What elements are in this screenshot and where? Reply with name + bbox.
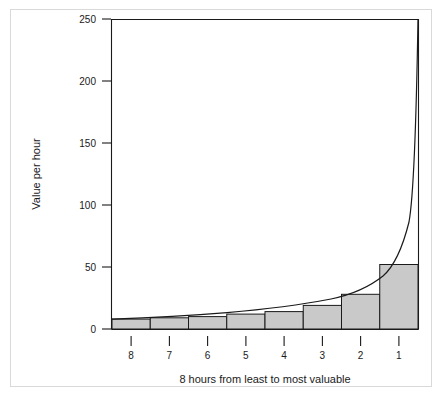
- bar-hour-5: [227, 314, 265, 329]
- x-tick-label-3: 3: [320, 350, 326, 361]
- y-tick-label-250: 250: [79, 14, 96, 25]
- y-tick-label-200: 200: [79, 76, 96, 87]
- x-tick-label-4: 4: [281, 350, 287, 361]
- bars: [112, 265, 418, 330]
- chart-canvas: 250 200 150 100 50 0 Value per hour: [0, 0, 443, 407]
- value-curve: [112, 19, 418, 319]
- bar-hour-6: [189, 317, 227, 329]
- x-axis-tick-labels: 8 7 6 5 4 3 2 1: [128, 350, 402, 361]
- bar-hour-4: [265, 312, 303, 329]
- x-tick-label-7: 7: [167, 350, 173, 361]
- bar-hour-8: [112, 319, 150, 329]
- x-axis-title: 8 hours from least to most valuable: [179, 373, 350, 385]
- x-tick-label-6: 6: [205, 350, 211, 361]
- y-axis-title: Value per hour: [30, 138, 42, 210]
- y-axis-ticks: [102, 19, 111, 329]
- chart-figure: 250 200 150 100 50 0 Value per hour: [0, 0, 443, 407]
- y-axis-tick-labels: 250 200 150 100 50 0: [79, 14, 96, 335]
- x-tick-label-2: 2: [358, 350, 364, 361]
- bar-hour-7: [150, 318, 188, 329]
- y-tick-label-150: 150: [79, 138, 96, 149]
- x-tick-label-5: 5: [243, 350, 249, 361]
- bar-hour-3: [303, 305, 341, 329]
- x-tick-label-1: 1: [396, 350, 402, 361]
- x-axis-ticks: [131, 336, 399, 346]
- x-tick-label-8: 8: [128, 350, 134, 361]
- y-tick-label-50: 50: [85, 262, 97, 273]
- y-tick-label-100: 100: [79, 200, 96, 211]
- bar-hour-2: [342, 294, 380, 329]
- y-tick-label-0: 0: [90, 324, 96, 335]
